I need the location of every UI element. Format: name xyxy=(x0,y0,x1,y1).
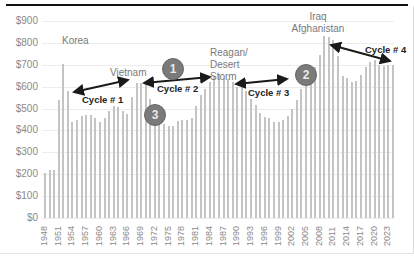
cycle-label-3: Cycle # 3 xyxy=(248,87,289,98)
cycle-3-arrow xyxy=(236,79,287,84)
cycle-1-arrow xyxy=(74,80,128,92)
cycle-label-2: Cycle # 2 xyxy=(157,83,198,94)
cycle-label-1: Cycle # 1 xyxy=(82,94,123,105)
marker-1: 1 xyxy=(162,58,184,80)
cycle-label-4: Cycle # 4 xyxy=(365,44,406,55)
marker-2: 2 xyxy=(295,64,317,86)
marker-3: 3 xyxy=(144,104,166,126)
cycle-arrows xyxy=(0,0,414,260)
